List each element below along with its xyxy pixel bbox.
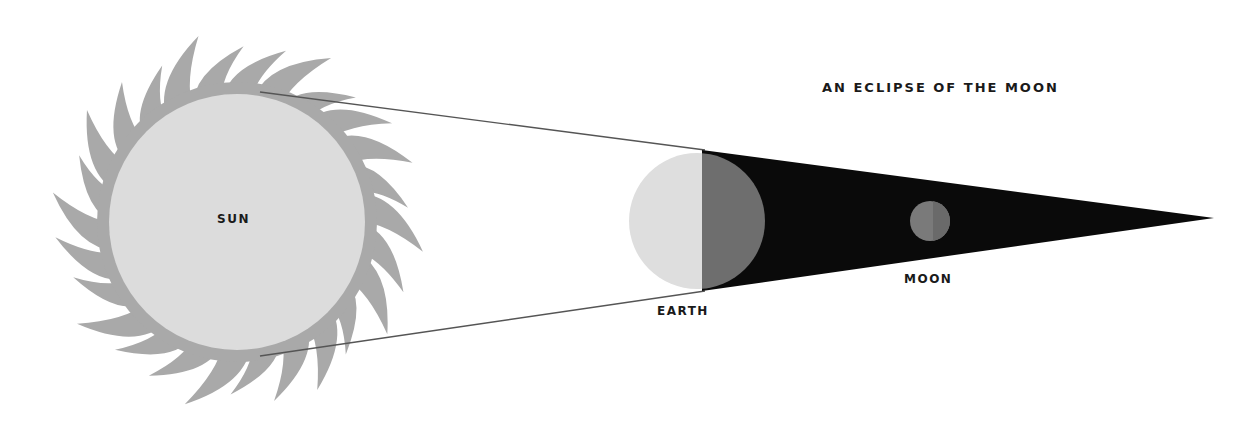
moon-label: MOON [904,272,952,286]
eclipse-diagram [0,0,1239,430]
earth-shadow-cone [702,150,1214,291]
sun-label: SUN [217,212,250,226]
earth-label: EARTH [657,304,709,318]
diagram-title: AN ECLIPSE OF THE MOON [822,80,1059,95]
